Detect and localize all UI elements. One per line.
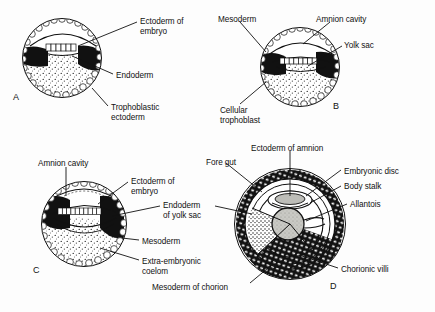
panel-letter-c: C <box>33 265 40 275</box>
label-chorionic-villi-d: Chorionic villi <box>341 265 388 275</box>
panel-letter-a: A <box>13 92 19 102</box>
label-embryonic-disc-d: Embryonic disc <box>344 167 399 177</box>
label-body-stalk-d: Body stalk <box>344 182 381 192</box>
label-endoderm-of-yolk-sac-c: Endoderm of yolk sac <box>163 201 201 220</box>
label-cellular-trophoblast-b: Cellular trophoblast <box>220 106 260 125</box>
label-endoderm-a: Endoderm <box>116 71 153 81</box>
panel-b-drawing <box>240 22 342 107</box>
label-mesoderm-of-chorion-d: Mesoderm of chorion <box>152 283 228 293</box>
label-fore-gut-d: Fore gut <box>206 158 236 168</box>
label-mesoderm-b: Mesoderm <box>218 15 256 25</box>
label-mesoderm-c: Mesoderm <box>142 237 180 247</box>
label-yolk-sac-b: Yolk sac <box>344 41 374 51</box>
label-trophoblastic-ectoderm-a: Trophoblastic ectoderm <box>111 103 159 122</box>
label-extra-embryonic-coelom-c: Extra-embryonic coelom <box>142 257 201 276</box>
panel-d-drawing <box>215 151 347 283</box>
embryology-figure: A Ectoderm of embryo Endoderm Trophoblas… <box>0 0 435 312</box>
label-amnion-cavity-c: Amnion cavity <box>38 159 88 169</box>
panel-letter-d: D <box>330 281 337 291</box>
label-ectoderm-of-embryo-c: Ectoderm of embryo <box>131 177 175 196</box>
label-ectoderm-of-embryo-a: Ectoderm of embryo <box>140 17 184 36</box>
panel-letter-b: B <box>333 101 339 111</box>
label-amnion-cavity-b: Amnion cavity <box>316 15 366 25</box>
label-ectoderm-of-amnion-d: Ectoderm of amnion <box>251 144 323 154</box>
panel-a-drawing <box>20 16 137 106</box>
label-allantois-d: Allantois <box>350 200 381 210</box>
